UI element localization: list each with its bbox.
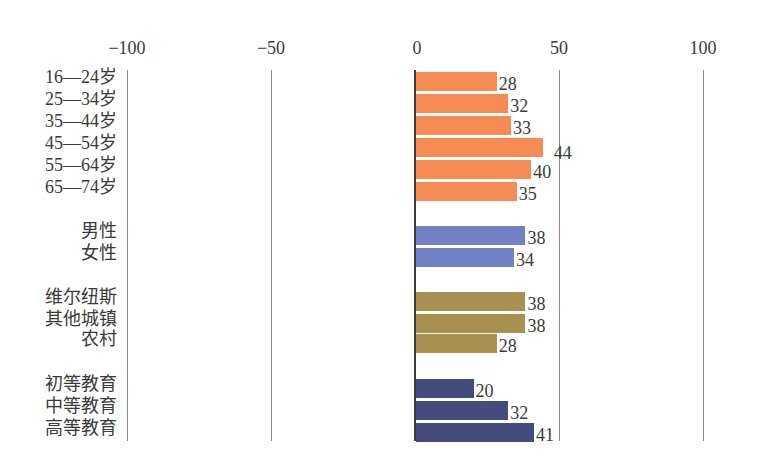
category-label: 35—44岁 [45, 112, 117, 131]
bar-age [416, 160, 531, 179]
value-label: 40 [533, 163, 551, 182]
value-label: 32 [510, 404, 528, 423]
value-label: 33 [513, 119, 531, 138]
bar-age [416, 138, 543, 157]
category-label: 男性 [81, 222, 117, 241]
x-tick-label: −100 [108, 38, 145, 59]
bar-age [416, 72, 497, 91]
x-tick-label: 0 [413, 38, 422, 59]
bar-gender [416, 226, 525, 245]
value-label: 38 [527, 229, 545, 248]
category-label: 中等教育 [45, 397, 117, 416]
value-label: 38 [527, 317, 545, 336]
gridline [271, 70, 272, 441]
category-label: 25—34岁 [45, 90, 117, 109]
bar-gender [416, 248, 514, 267]
value-label: 35 [519, 185, 537, 204]
bar-location [416, 314, 525, 333]
value-label: 32 [510, 97, 528, 116]
bar-location [416, 334, 497, 353]
bar-education [416, 401, 508, 420]
value-label: 20 [476, 382, 494, 401]
gridline [559, 70, 560, 441]
value-label: 41 [536, 426, 554, 445]
category-label: 16—24岁 [45, 68, 117, 87]
bar-education [416, 423, 534, 442]
category-label: 农村 [81, 330, 117, 349]
category-label: 女性 [81, 244, 117, 263]
value-label: 28 [499, 337, 517, 356]
category-label: 高等教育 [45, 419, 117, 438]
category-label: 65—74岁 [45, 178, 117, 197]
bar-age [416, 116, 511, 135]
value-label: 38 [527, 295, 545, 314]
category-label: 维尔纽斯 [45, 288, 117, 307]
category-label: 初等教育 [45, 375, 117, 394]
category-label: 其他城镇 [45, 310, 117, 329]
value-label: 44 [554, 144, 572, 163]
value-label: 34 [516, 251, 534, 270]
bar-age [416, 94, 508, 113]
category-label: 55—64岁 [45, 156, 117, 175]
bar-age [416, 182, 517, 201]
value-label: 28 [499, 75, 517, 94]
bar-location [416, 292, 525, 311]
gridline [127, 70, 128, 441]
gridline [703, 70, 704, 441]
category-label: 45—54岁 [45, 134, 117, 153]
chart: −100−50050100 28323344403538343838282032… [0, 0, 757, 470]
x-tick-label: −50 [257, 38, 285, 59]
x-tick-label: 100 [690, 38, 717, 59]
x-tick-label: 50 [550, 38, 568, 59]
bar-education [416, 379, 474, 398]
